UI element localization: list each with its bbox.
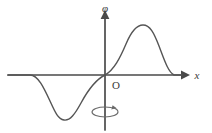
- x-axis-label: x: [194, 69, 200, 81]
- y-axis: [101, 10, 110, 130]
- y-axis-label: φ: [102, 2, 108, 14]
- graph-canvas: φ x O: [0, 0, 212, 133]
- wave-curve: [8, 25, 182, 120]
- origin-label: O: [112, 79, 120, 91]
- wave-graph-figure: φ x O: [0, 0, 212, 133]
